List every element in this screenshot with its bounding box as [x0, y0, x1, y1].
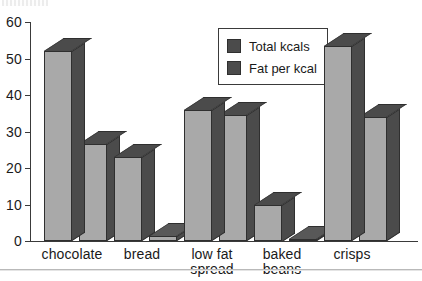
legend-swatch-icon — [227, 39, 241, 53]
y-tick — [25, 132, 30, 133]
bar-side-face — [142, 149, 155, 241]
legend-swatch-icon — [227, 61, 241, 75]
bar-bread-total-kcals — [114, 157, 142, 241]
y-tick-label: 30 — [6, 125, 22, 139]
y-tick — [25, 95, 30, 96]
legend-label: Total kcals — [249, 40, 310, 53]
bar-side-face — [387, 108, 400, 241]
x-label-low-fat-spread: low fat spread — [176, 247, 248, 277]
y-tick — [25, 59, 30, 60]
top-text-remnant — [2, 0, 48, 6]
y-tick — [25, 168, 30, 169]
bar-crisps-total-kcals — [324, 46, 352, 241]
y-tick — [25, 22, 30, 23]
bar-front-face — [324, 46, 352, 241]
y-axis-line — [30, 22, 31, 242]
x-label-crisps: crisps — [316, 247, 388, 262]
legend-label: Fat per kcal — [249, 62, 317, 75]
bar-front-face — [254, 205, 282, 242]
bar-front-face — [44, 51, 72, 241]
x-axis-line — [30, 241, 418, 242]
y-tick-label: 50 — [6, 52, 22, 66]
chart-legend: Total kcals Fat per kcal — [218, 28, 328, 85]
bar-front-face — [149, 236, 177, 241]
x-label-chocolate: chocolate — [36, 247, 108, 262]
legend-item-total-kcals: Total kcals — [227, 36, 310, 56]
bar-baked-beans-fat-per-kcal — [289, 239, 317, 241]
bar-bread-fat-per-kcal — [149, 236, 177, 241]
bar-chart: 0102030405060 chocolatebreadlow fat spre… — [0, 0, 422, 281]
bar-baked-beans-total-kcals — [254, 205, 282, 242]
y-tick-label: 0 — [14, 234, 22, 248]
y-tick-label: 10 — [6, 198, 22, 212]
y-tick — [25, 241, 30, 242]
bar-front-face — [289, 239, 317, 241]
bar-side-face — [72, 43, 85, 241]
bar-chocolate-total-kcals — [44, 51, 72, 241]
bar-front-face — [184, 110, 212, 241]
page-divider-shadow — [0, 270, 422, 271]
legend-item-fat-per-kcal: Fat per kcal — [227, 58, 317, 78]
y-tick — [25, 205, 30, 206]
x-label-baked-beans: baked beans — [246, 247, 318, 277]
y-tick-label: 20 — [6, 161, 22, 175]
bar-low-fat-spread-total-kcals — [184, 110, 212, 241]
bar-side-face — [352, 37, 365, 241]
bar-front-face — [114, 157, 142, 241]
y-tick-label: 60 — [6, 15, 22, 29]
x-label-bread: bread — [106, 247, 178, 262]
bar-side-face — [212, 101, 225, 241]
y-tick-label: 40 — [6, 88, 22, 102]
bar-side-face — [282, 196, 295, 241]
